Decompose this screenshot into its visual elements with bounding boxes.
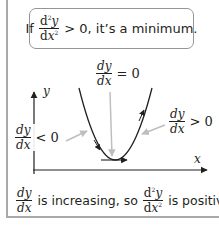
- label-slope-positive: dy dx > 0: [167, 108, 213, 135]
- caption-end-text: is positive: [168, 193, 219, 208]
- numerator-text: dy: [170, 107, 184, 121]
- denominator-text: dx: [17, 201, 31, 215]
- y-axis-label: y: [43, 84, 50, 98]
- dy-dx-fraction: dy dx: [169, 108, 185, 135]
- numerator: dy: [16, 187, 32, 201]
- denominator-text: dx: [97, 74, 111, 88]
- denominator: dx: [17, 201, 31, 214]
- second-derivative-fraction: d2y dx2: [143, 187, 163, 214]
- caption: dy dx is increasing, so d2y dx2 is posit…: [14, 187, 219, 214]
- variable-y: y: [155, 186, 162, 200]
- pointer-left: [66, 131, 87, 141]
- numerator: dy: [169, 108, 185, 122]
- label-slope-negative: dy dx < 0: [13, 124, 59, 151]
- denominator: dx: [97, 74, 111, 87]
- numerator: d2y: [143, 187, 163, 201]
- d-symbol: d: [144, 186, 152, 200]
- denominator: dx2: [144, 201, 162, 214]
- numerator: dy: [15, 124, 31, 138]
- dy-dx-fraction: dy dx: [16, 187, 32, 214]
- relation-text: < 0: [35, 130, 58, 145]
- caption-middle-text: is increasing, so: [37, 193, 137, 208]
- relation-text: > 0: [189, 114, 212, 129]
- numerator-text: dy: [97, 59, 111, 73]
- denominator: dx: [16, 138, 30, 151]
- numerator-text: dy: [16, 123, 30, 137]
- dy-dx-fraction: dy dx: [96, 60, 112, 87]
- denominator-text: dx: [170, 122, 184, 136]
- pointer-top: [110, 92, 112, 156]
- dy-dx-fraction: dy dx: [15, 124, 31, 151]
- pointer-right: [142, 125, 165, 134]
- numerator: dy: [96, 60, 112, 74]
- label-slope-zero: dy dx = 0: [94, 60, 140, 87]
- parabola-curve: [79, 88, 152, 160]
- x-axis-label: x: [194, 152, 201, 166]
- d-symbol: d: [144, 201, 152, 215]
- denominator-text: dx: [16, 138, 30, 152]
- exponent: 2: [158, 201, 162, 208]
- numerator-text: dy: [17, 186, 31, 200]
- denominator: dx: [170, 122, 184, 135]
- relation-text: = 0: [116, 66, 139, 81]
